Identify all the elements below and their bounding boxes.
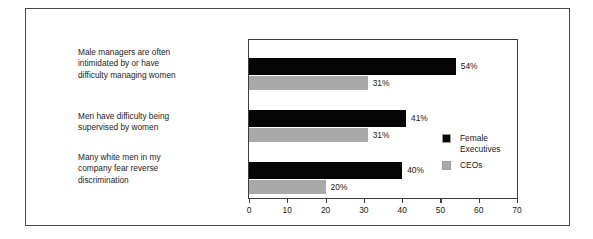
x-tick (326, 198, 327, 203)
x-tick-label: 50 (436, 205, 445, 215)
legend-label: Female Executives (460, 133, 501, 155)
chart-figure-frame: Male managers are often intimidated by o… (25, 8, 570, 226)
legend-swatch-icon (442, 134, 451, 143)
bar-ceos-2 (249, 180, 326, 194)
legend-label: CEOs (460, 160, 482, 171)
x-tick (249, 198, 250, 203)
x-tick-label: 40 (397, 205, 406, 215)
category-label: Male managers are often intimidated by o… (78, 47, 230, 81)
bar-value-label: 54% (461, 61, 478, 71)
category-label: Many white men in my company fear revers… (78, 152, 230, 186)
bar-female-executives-2 (249, 162, 402, 179)
x-tick-label: 10 (283, 205, 292, 215)
x-tick (479, 198, 480, 203)
bar-female-executives-1 (249, 110, 406, 127)
x-tick (440, 198, 441, 203)
plot-area: 54% 31% 41% 31% 40% 20% (248, 39, 518, 199)
legend-item-female-executives: Female Executives (442, 133, 501, 155)
category-label: Men have difficulty being supervised by … (78, 111, 230, 134)
bar-value-label: 20% (331, 182, 348, 192)
x-tick-label: 30 (359, 205, 368, 215)
x-tick-label: 20 (321, 205, 330, 215)
bar-female-executives-0 (249, 58, 456, 75)
plot-bars-layer: 54% 31% 41% 31% 40% 20% (249, 40, 517, 198)
x-tick (287, 198, 288, 203)
bar-ceos-0 (249, 76, 368, 90)
x-tick (402, 198, 403, 203)
legend-item-ceos: CEOs (442, 160, 482, 171)
bar-value-label: 31% (373, 78, 390, 88)
x-tick-label: 60 (474, 205, 483, 215)
legend-swatch-icon (442, 161, 451, 170)
bar-value-label: 41% (411, 113, 428, 123)
x-axis-line (248, 198, 518, 199)
bar-value-label: 40% (407, 165, 424, 175)
bar-ceos-1 (249, 128, 368, 142)
x-tick (364, 198, 365, 203)
x-tick-label: 0 (247, 205, 252, 215)
x-tick-label: 70 (512, 205, 521, 215)
x-tick (517, 198, 518, 203)
x-axis: 010203040506070 (248, 198, 518, 224)
bar-value-label: 31% (373, 130, 390, 140)
